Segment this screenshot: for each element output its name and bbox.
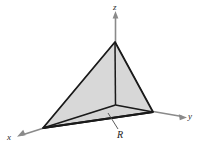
vertical-edge [115, 42, 116, 105]
tetrahedron-figure: z y x R [0, 0, 199, 150]
z-axis-arrowhead-icon [113, 11, 119, 19]
figure-canvas [0, 0, 199, 150]
y-axis-label: y [188, 112, 192, 121]
y-axis-arrowhead-icon [179, 114, 187, 120]
x-axis-label: x [7, 133, 11, 142]
tetrahedron-solid [43, 42, 153, 128]
x-axis-arrowhead-icon [17, 130, 26, 137]
region-label: R [117, 130, 123, 140]
z-axis-label: z [113, 3, 117, 12]
